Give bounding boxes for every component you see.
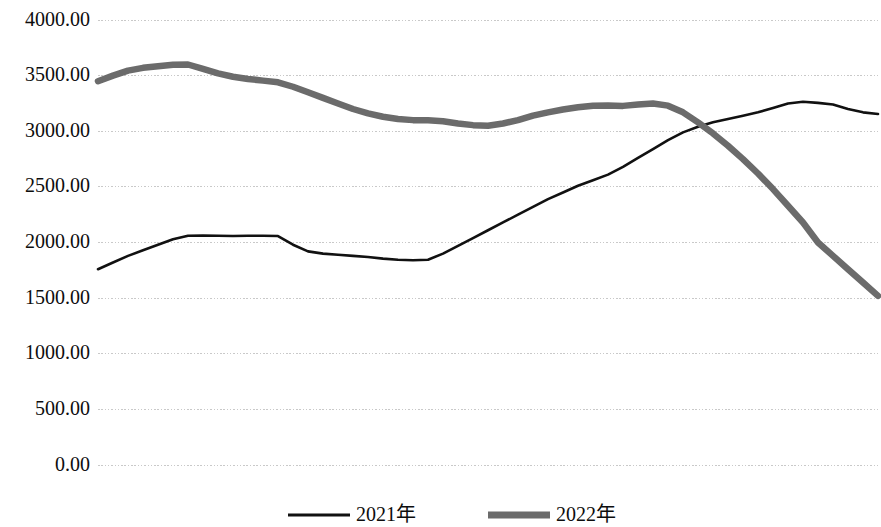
y-axis-tick-label: 1500.00 xyxy=(25,286,90,308)
y-axis-tick-label: 3000.00 xyxy=(25,119,90,141)
y-axis-tick-label: 2500.00 xyxy=(25,174,90,196)
legend-label-1: 2021年 xyxy=(356,503,416,525)
y-axis-tick-label: 500.00 xyxy=(35,397,90,419)
gridline-group xyxy=(98,20,878,465)
line-chart: 0.00500.001000.001500.002000.002500.0030… xyxy=(0,0,881,527)
y-axis-tick-label: 4000.00 xyxy=(25,8,90,30)
series-group xyxy=(98,65,878,296)
y-axis-tick-label: 3500.00 xyxy=(25,63,90,85)
series-line-2 xyxy=(98,65,878,296)
y-axis-tick-label: 1000.00 xyxy=(25,341,90,363)
y-axis-tick-label: 2000.00 xyxy=(25,230,90,252)
chart-canvas: 0.00500.001000.001500.002000.002500.0030… xyxy=(0,0,881,527)
chart-legend: 2021年2022年 xyxy=(288,503,616,525)
y-axis-tick-labels: 0.00500.001000.001500.002000.002500.0030… xyxy=(25,8,90,475)
y-axis-tick-label: 0.00 xyxy=(55,453,90,475)
legend-label-2: 2022年 xyxy=(556,503,616,525)
